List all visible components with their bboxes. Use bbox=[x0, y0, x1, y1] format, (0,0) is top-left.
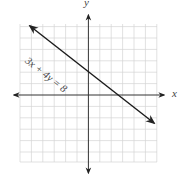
coordinate-plane bbox=[0, 0, 186, 177]
y-axis-label: y bbox=[84, 0, 89, 8]
x-axis-label: x bbox=[172, 87, 177, 99]
